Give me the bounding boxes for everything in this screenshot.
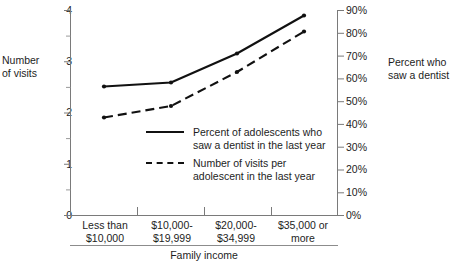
x-axis-category-ticks [71,207,338,216]
series-markers-percent-dentist [102,13,306,88]
plot-area [0,0,457,267]
series-line-percent-dentist [104,16,304,87]
series-markers-number-of-visits [102,29,306,119]
chart-container: Number of visits Percent who saw a denti… [0,0,457,267]
right-axis-ticks [338,11,345,216]
left-axis-major-ticks [64,11,71,216]
series-line-number-of-visits [104,32,304,118]
